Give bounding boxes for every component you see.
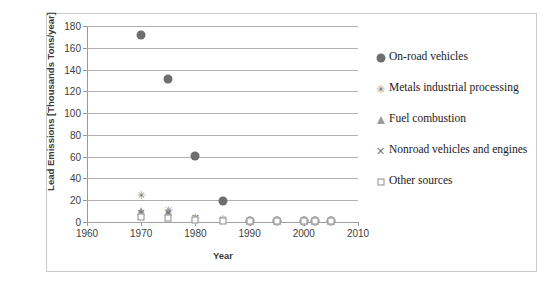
y-tick-label: 180 [64,21,81,32]
y-tick-mark [83,91,87,92]
data-point [219,217,226,224]
data-point [138,213,145,220]
x-tick-label: 2000 [293,228,315,239]
data-point: ✳ [137,189,146,200]
y-tick-label: 120 [64,86,81,97]
x-tick-mark [358,222,359,226]
y-tick-mark [83,113,87,114]
data-point [191,151,200,160]
gridline [87,48,358,49]
x-tick-label: 2010 [347,228,369,239]
y-tick-label: 160 [64,42,81,53]
chart-legend: On-road vehicles✳Metals industrial proce… [374,50,534,205]
x-tick-label: 1960 [76,228,98,239]
legend-marker-star-icon: ✳ [374,82,387,95]
data-point [192,216,199,223]
x-tick-label: 1970 [130,228,152,239]
y-tick-label: 80 [70,129,81,140]
x-tick-label: 1990 [238,228,260,239]
legend-marker-triangle-icon [374,113,387,126]
data-point [246,217,253,224]
data-point [165,214,172,221]
legend-marker-open-square-icon [374,175,387,188]
y-tick-mark [83,26,87,27]
y-axis-title: Lead Emissions [Thousands Tons/year] [45,0,56,212]
data-point [327,217,334,224]
y-tick-label: 20 [70,195,81,206]
gridline [87,70,358,71]
gridline [87,157,358,158]
chart-figure: Lead Emissions [Thousands Tons/year] 020… [0,0,548,289]
legend-label: Metals industrial processing [389,81,519,94]
gridline [87,135,358,136]
y-tick-mark [83,135,87,136]
legend-item: Other sources [374,174,534,188]
legend-label: Fuel combustion [389,112,466,125]
y-tick-label: 40 [70,173,81,184]
data-point [137,30,146,39]
x-tick-label: 1980 [184,228,206,239]
data-point [218,197,227,206]
y-tick-label: 100 [64,108,81,119]
y-tick-label: 140 [64,64,81,75]
legend-label: Nonroad vehicles and engines [389,143,527,156]
legend-label: On-road vehicles [389,50,468,63]
y-tick-mark [83,157,87,158]
gridline [87,91,358,92]
data-point [273,217,280,224]
legend-item: On-road vehicles [374,50,534,64]
legend-label: Other sources [389,174,453,187]
legend-item: Fuel combustion [374,112,534,126]
gridline [87,26,358,27]
y-tick-mark [83,48,87,49]
y-tick-label: 60 [70,151,81,162]
y-tick-mark [83,200,87,201]
x-tick-mark [87,222,88,226]
legend-marker-filled-circle-icon [374,51,387,64]
gridline [87,178,358,179]
y-tick-mark [83,178,87,179]
plot-area: 020406080100120140160180 196019701980199… [87,26,358,222]
legend-marker-x-icon: ✕ [374,144,387,157]
data-point [300,217,307,224]
x-axis-title: Year [87,250,359,261]
legend-item: ✳Metals industrial processing [374,81,534,95]
gridline [87,113,358,114]
legend-item: ✕Nonroad vehicles and engines [374,143,534,157]
x-tick-mark [141,222,142,226]
y-tick-mark [83,70,87,71]
y-tick-label: 0 [75,217,81,228]
data-point [164,75,173,84]
data-point [311,217,318,224]
